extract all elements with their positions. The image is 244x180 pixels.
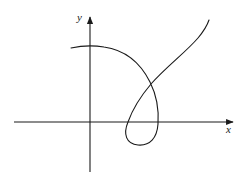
diagram-canvas [0,0,244,180]
parametric-curve [71,20,209,145]
y-axis-label: y [77,12,82,23]
x-axis-label: x [226,124,231,135]
